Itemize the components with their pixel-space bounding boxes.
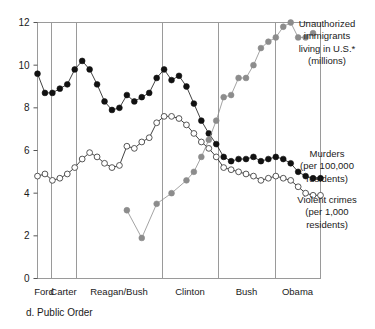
data-point-unauthorized-immigrants-2006 (273, 35, 279, 41)
data-point-unauthorized-immigrants-1986 (124, 207, 130, 213)
data-point-murders-1980 (79, 58, 85, 64)
legend-label-violent-line-1: (per 1,000 (305, 206, 348, 217)
data-point-murders-1999 (221, 154, 227, 160)
data-series-layer (35, 20, 324, 241)
x-era-label-obama: Obama (282, 286, 314, 297)
data-point-unauthorized-immigrants-1996 (198, 154, 204, 160)
data-point-violent-crimes-1995 (191, 131, 197, 137)
data-point-violent-crimes-1993 (176, 116, 182, 122)
legend-entry-murders: Murders(per 100,000residents) (300, 148, 354, 184)
data-point-violent-crimes-2006 (273, 173, 279, 179)
data-point-unauthorized-immigrants-2001 (236, 75, 242, 81)
data-point-unauthorized-immigrants-2002 (243, 75, 249, 81)
x-era-label-carter: Carter (50, 286, 76, 297)
legend-label-violent-line-2: residents) (306, 219, 348, 230)
data-point-murders-1977 (57, 86, 63, 92)
data-point-violent-crimes-2000 (228, 167, 234, 173)
data-point-violent-crimes-1996 (198, 139, 204, 145)
figure-caption: d. Public Order (26, 307, 93, 318)
data-point-violent-crimes-1997 (206, 145, 212, 151)
data-point-unauthorized-immigrants-2008 (288, 20, 294, 26)
data-point-violent-crimes-1998 (213, 154, 219, 160)
data-point-murders-1978 (64, 81, 70, 87)
legend-label-immigrants-line-3: (millions) (308, 55, 346, 66)
data-point-murders-1984 (109, 107, 115, 113)
data-point-unauthorized-immigrants-2009 (295, 35, 301, 41)
data-point-unauthorized-immigrants-1988 (139, 235, 145, 241)
legend-entry-immigrants: Unauthorizedimmigrantsliving in U.S.*(mi… (299, 18, 356, 66)
data-point-violent-crimes-2003 (251, 173, 257, 179)
data-point-violent-crimes-1991 (161, 113, 167, 119)
data-point-murders-2006 (273, 154, 279, 160)
data-point-unauthorized-immigrants-2005 (265, 39, 271, 45)
data-point-violent-crimes-1982 (94, 154, 100, 160)
data-point-murders-1982 (94, 81, 100, 87)
legend-label-immigrants-line-0: Unauthorized (299, 18, 356, 29)
data-point-murders-2000 (228, 158, 234, 164)
data-point-murders-2003 (251, 154, 257, 160)
data-point-violent-crimes-2005 (265, 175, 271, 181)
data-point-murders-1992 (169, 77, 175, 83)
data-point-murders-1986 (124, 92, 130, 98)
data-point-murders-1975 (42, 90, 48, 96)
data-point-murders-1995 (191, 101, 197, 107)
data-point-violent-crimes-1985 (117, 163, 123, 169)
data-point-murders-1998 (213, 141, 219, 147)
y-tick-label-8: 8 (24, 102, 30, 113)
data-point-violent-crimes-2008 (288, 177, 294, 183)
data-point-unauthorized-immigrants-2003 (251, 62, 257, 68)
data-point-murders-2001 (236, 156, 242, 162)
chart-area: 024681012 FordCarterReagan/BushClintonBu… (0, 0, 375, 300)
data-point-violent-crimes-1989 (146, 135, 152, 141)
data-point-violent-crimes-2004 (258, 177, 264, 183)
data-point-violent-crimes-1980 (79, 156, 85, 162)
data-point-unauthorized-immigrants-1994 (184, 177, 190, 183)
legend-label-murders-line-1: (per 100,000 (300, 160, 354, 171)
data-point-unauthorized-immigrants-1992 (169, 190, 175, 196)
y-tick-label-2: 2 (24, 230, 30, 241)
x-era-label-reagan-bush: Reagan/Bush (90, 286, 148, 297)
data-point-violent-crimes-2007 (280, 175, 286, 181)
y-tick-label-4: 4 (24, 188, 30, 199)
x-era-label-bush: Bush (236, 286, 258, 297)
data-point-violent-crimes-1984 (109, 165, 115, 171)
legend-label-violent-line-0: Violent crimes (297, 194, 357, 205)
data-point-murders-1976 (49, 90, 55, 96)
y-tick-label-10: 10 (18, 60, 30, 71)
y-axis-tick-labels: 024681012 (18, 17, 37, 284)
data-point-unauthorized-immigrants-1990 (154, 201, 160, 207)
data-point-violent-crimes-1994 (184, 122, 190, 128)
data-point-violent-crimes-1987 (131, 145, 137, 151)
data-point-murders-2008 (288, 160, 294, 166)
data-point-violent-crimes-1979 (72, 165, 78, 171)
data-point-murders-1981 (87, 67, 93, 73)
data-point-violent-crimes-2002 (243, 171, 249, 177)
y-tick-label-12: 12 (18, 17, 30, 28)
legend-label-immigrants-line-2: living in U.S.* (299, 43, 356, 54)
data-point-murders-1993 (176, 73, 182, 79)
data-point-murders-1983 (102, 99, 108, 105)
data-point-unauthorized-immigrants-1995 (191, 169, 197, 175)
data-point-murders-2002 (243, 156, 249, 162)
data-point-murders-2007 (280, 156, 286, 162)
data-point-murders-2004 (258, 158, 264, 164)
data-point-violent-crimes-1976 (49, 177, 55, 183)
chart-legend: Unauthorizedimmigrantsliving in U.S.*(mi… (297, 18, 357, 230)
data-point-unauthorized-immigrants-2000 (228, 92, 234, 98)
data-point-unauthorized-immigrants-2004 (258, 45, 264, 51)
data-point-murders-1985 (117, 105, 123, 111)
data-point-violent-crimes-1992 (169, 113, 175, 119)
data-point-violent-crimes-1983 (102, 160, 108, 166)
data-point-violent-crimes-1974 (35, 173, 41, 179)
data-point-murders-1974 (35, 71, 41, 77)
public-order-chart-figure: 024681012 FordCarterReagan/BushClintonBu… (0, 0, 375, 329)
data-point-murders-1988 (139, 94, 145, 100)
data-point-murders-1996 (198, 118, 204, 124)
data-point-violent-crimes-1986 (124, 143, 130, 149)
x-era-label-clinton: Clinton (175, 286, 205, 297)
data-point-unauthorized-immigrants-2007 (280, 24, 286, 30)
data-point-violent-crimes-2009 (295, 184, 301, 190)
data-point-murders-1994 (184, 84, 190, 90)
data-point-violent-crimes-1981 (87, 150, 93, 156)
x-axis-era-labels: FordCarterReagan/BushClintonBushObama (34, 286, 314, 297)
